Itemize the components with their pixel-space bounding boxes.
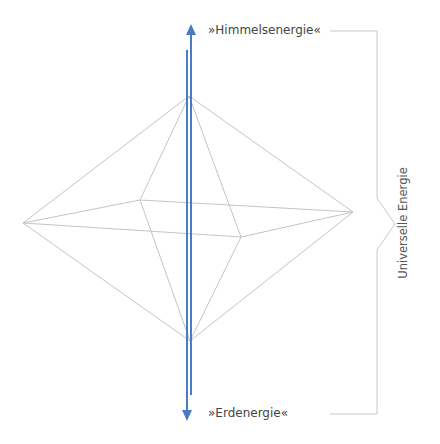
universelle-energie-label: Universelle Energie <box>396 167 410 278</box>
edge-bottom-left <box>23 223 190 341</box>
edge-front-left <box>23 223 241 237</box>
edge-top-front <box>189 96 241 237</box>
energy-arrows <box>182 24 196 421</box>
edge-right-front <box>241 212 353 237</box>
down-arrow-head-icon <box>182 410 192 421</box>
edge-top-left <box>23 96 189 223</box>
edge-back-right <box>140 200 353 212</box>
edge-bottom-back <box>140 200 190 341</box>
edge-bottom-right <box>190 212 353 341</box>
up-arrow-head-icon <box>186 24 196 35</box>
edge-top-right <box>189 96 353 212</box>
edge-bottom-front <box>190 237 241 341</box>
diagram-canvas <box>0 0 440 444</box>
himmelsenergie-label: »Himmelsenergie« <box>208 23 321 37</box>
erdenergie-label: »Erdenergie« <box>208 406 288 420</box>
edge-left-back <box>23 200 140 223</box>
edge-top-back <box>140 96 189 200</box>
